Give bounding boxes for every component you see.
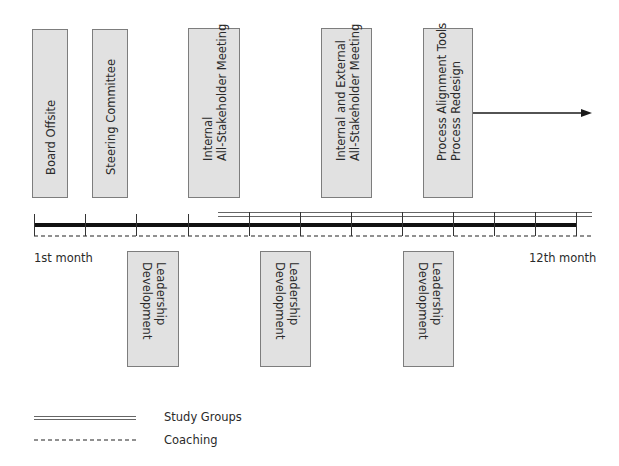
event-leadership-development-1: Leadership Development	[127, 251, 179, 367]
event-leadership-development-3: Leadership Development	[403, 251, 454, 367]
event-label-line-2: All-Stakeholder Meeting	[215, 24, 229, 161]
event-label: Board Offsite	[44, 100, 58, 175]
event-steering-committee: Steering Committee	[92, 29, 128, 198]
legend-study-groups-label: Study Groups	[164, 410, 242, 424]
event-label-line-1: Leadership	[287, 262, 301, 339]
event-label-line-2: Development	[416, 262, 430, 339]
event-label-line-2: Process Redesign	[449, 23, 463, 161]
event-label-line-2: Development	[140, 262, 154, 339]
legend-coaching-label: Coaching	[164, 433, 218, 447]
timeline-start-label: 1st month	[34, 251, 93, 265]
event-label-line-1: Internal and External	[334, 24, 348, 161]
event-internal-external-stakeholder-meeting: Internal and External All-Stakeholder Me…	[321, 28, 372, 198]
event-board-offsite: Board Offsite	[32, 29, 68, 198]
event-internal-stakeholder-meeting: Internal All-Stakeholder Meeting	[188, 28, 240, 198]
event-label-line-1: Internal	[201, 24, 215, 161]
event-process-alignment-redesign: Process Alignment Tools Process Redesign	[423, 28, 473, 198]
arrow-head-icon	[581, 109, 592, 117]
event-label-line-1: Leadership	[430, 262, 444, 339]
event-label-line-1: Process Alignment Tools	[435, 23, 449, 161]
timeline-end-label: 12th month	[529, 251, 596, 265]
event-label-line-2: Development	[273, 262, 287, 339]
event-label: Steering Committee	[104, 59, 118, 175]
event-label-line-1: Leadership	[154, 262, 168, 339]
event-leadership-development-2: Leadership Development	[260, 251, 311, 367]
event-label-line-2: All-Stakeholder Meeting	[348, 24, 362, 161]
